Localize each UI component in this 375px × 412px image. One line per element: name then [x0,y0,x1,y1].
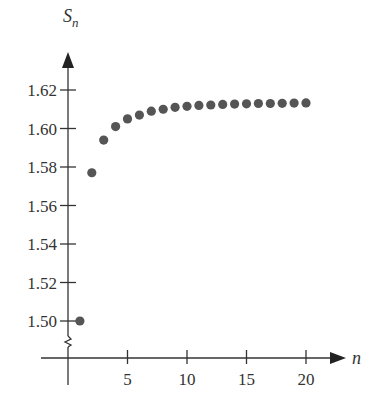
axis-break-icon [65,336,71,347]
y-tick-label: 1.50 [27,312,57,331]
data-point [194,101,203,110]
y-tick-label: 1.52 [27,274,57,293]
data-point [111,122,120,131]
y-tick-label: 1.54 [27,235,57,254]
x-axis-label: n [352,348,361,368]
data-point [266,99,275,108]
data-point [301,98,310,107]
data-point [99,135,108,144]
data-point [230,99,239,108]
x-tick-label: 10 [179,370,196,389]
x-tick-label: 15 [238,370,255,389]
data-point [75,316,84,325]
y-tick-label: 1.58 [27,158,57,177]
data-point [135,110,144,119]
x-axis-arrow-icon [330,352,346,364]
y-tick-label: 1.56 [27,197,57,216]
data-point [278,99,287,108]
y-tick-label: 1.62 [27,81,57,100]
data-point [254,99,263,108]
data-point [242,99,251,108]
x-tick-label: 20 [298,370,315,389]
data-point [147,107,156,116]
x-tick-label: 5 [123,370,132,389]
data-point [87,168,96,177]
data-point [171,103,180,112]
y-axis-label: Sn [63,6,79,30]
data-point [290,98,299,107]
x-axis: 5101520 [41,350,346,389]
data-point [206,100,215,109]
data-point [218,100,227,109]
y-axis: 1.501.521.541.561.581.601.62 [27,52,76,385]
sequence-scatter-chart: 1.501.521.541.561.581.601.62 5101520 Sn … [0,0,375,412]
data-points [75,98,310,325]
data-point [159,105,168,114]
data-point [123,114,132,123]
y-tick-label: 1.60 [27,120,57,139]
y-axis-arrow-icon [62,52,74,68]
data-point [182,102,191,111]
